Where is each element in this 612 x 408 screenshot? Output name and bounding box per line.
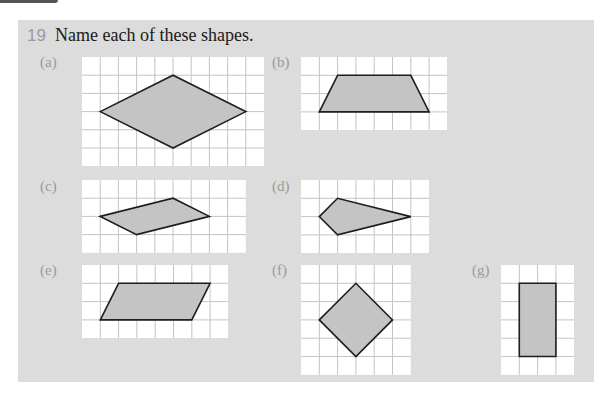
figure-f-square [301,265,411,375]
figure-e-parallelogram [82,265,228,338]
figure-d-kite [301,180,429,253]
figure-a-rhombus [82,57,264,166]
figure-c-parallelogram [82,180,246,253]
figure-label-g: (g) [472,262,490,279]
question-number: 19 [27,26,46,46]
square-grid [301,57,447,130]
square-grid [501,265,574,375]
square-grid [301,265,411,375]
figure-label-a: (a) [40,54,57,71]
square-grid [82,180,246,253]
figure-g-rectangle [501,265,574,375]
figure-label-f: (f) [272,262,287,279]
square-grid [82,57,264,166]
figure-label-e: (e) [40,262,57,279]
page-corner-tab [0,0,58,3]
square-grid [82,265,228,338]
question-prompt: Name each of these shapes. [55,25,253,46]
figure-label-c: (c) [40,178,57,195]
figure-b-trapezium [301,57,447,130]
figure-label-b: (b) [272,54,290,71]
figure-label-d: (d) [272,178,290,195]
square-grid [301,180,429,253]
